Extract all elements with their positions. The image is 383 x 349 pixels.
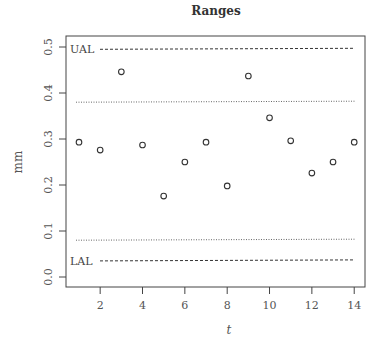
y-tick-label: 0.4 (42, 84, 55, 102)
data-point (97, 147, 103, 153)
x-tick-label: 2 (97, 299, 104, 312)
lal-label: LAL (70, 255, 93, 268)
ranges-chart: Ranges 0.00.10.20.30.40.5 2468101214 UAL… (0, 0, 383, 349)
x-tick-label: 12 (305, 299, 319, 312)
data-point (119, 69, 125, 75)
x-axis: 2468101214 (97, 287, 362, 312)
plot-frame (66, 36, 365, 287)
data-point (351, 139, 357, 145)
reference-lines: UALLAL (70, 43, 355, 268)
y-tick-label: 0.5 (42, 38, 55, 56)
ual-line (100, 48, 355, 49)
x-tick-label: 6 (181, 299, 188, 312)
data-point (267, 115, 273, 121)
x-tick-label: 4 (139, 299, 146, 312)
x-tick-label: 10 (263, 299, 277, 312)
x-tick-label: 14 (347, 299, 361, 312)
data-point (246, 73, 252, 79)
y-tick-label: 0.1 (42, 222, 55, 240)
chart-title: Ranges (191, 4, 241, 18)
y-tick-label: 0.0 (42, 268, 55, 286)
data-point (182, 159, 188, 165)
y-axis-label: mm (11, 150, 25, 173)
data-point (203, 139, 209, 145)
x-tick-label: 8 (224, 299, 231, 312)
data-point (330, 159, 336, 165)
lower-warning-line (76, 239, 355, 240)
data-point (309, 170, 315, 176)
x-axis-label: t (227, 323, 232, 337)
data-point (76, 139, 82, 145)
y-tick-label: 0.3 (42, 130, 55, 148)
data-point (161, 193, 167, 199)
y-tick-label: 0.2 (42, 176, 55, 194)
ual-label: UAL (70, 43, 95, 56)
y-axis: 0.00.10.20.30.40.5 (42, 38, 66, 286)
data-point (288, 138, 294, 144)
lal-line (100, 260, 355, 261)
data-point (224, 183, 230, 189)
data-points (76, 69, 357, 199)
upper-warning-line (76, 101, 355, 102)
data-point (140, 142, 146, 148)
